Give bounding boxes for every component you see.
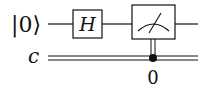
quantum-circuit: |0⟩ H c 0 xyxy=(0,0,208,91)
measure-gate xyxy=(132,5,175,39)
measure-target-dot xyxy=(149,54,157,62)
bit-index-label: 0 xyxy=(147,67,158,88)
classical-label: c xyxy=(28,44,39,68)
hadamard-gate-label: H xyxy=(78,13,96,35)
hadamard-gate: H xyxy=(73,10,102,38)
qubit-label: |0⟩ xyxy=(11,12,41,38)
